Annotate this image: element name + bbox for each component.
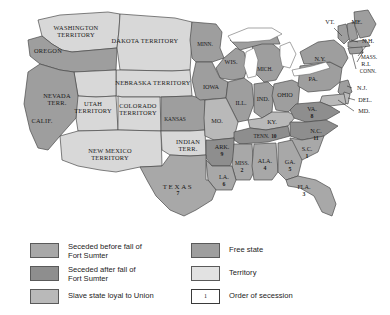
label-minn-: MINN. bbox=[197, 41, 213, 47]
label-line: WASHINGTON bbox=[54, 24, 99, 31]
label-mich-: MICH. bbox=[257, 66, 272, 72]
secession-order-texas: 7 bbox=[177, 190, 180, 196]
map-figure: WASHINGTONTERRITORYOREGONDAKOTA TERRITOR… bbox=[0, 0, 390, 315]
label-ind-: IND. bbox=[257, 95, 270, 102]
label-n-j-: N.J. bbox=[357, 84, 367, 91]
legend-label: Territory bbox=[229, 269, 256, 278]
label-text: TENN. bbox=[253, 133, 269, 139]
legend-swatch-after bbox=[30, 266, 59, 281]
label-r-i-: R.I. bbox=[361, 60, 371, 67]
legend-label: Seceded after fall of Fort Sumter bbox=[68, 266, 136, 284]
label-line: NEVADA bbox=[43, 92, 71, 99]
label-va-: VA. bbox=[307, 105, 317, 112]
label-new-mexico-territory: NEW MEXICOTERRITORY bbox=[88, 147, 132, 161]
label-del-: DEL. bbox=[358, 96, 372, 103]
label-ky-: KY. bbox=[267, 118, 277, 125]
lake-huron bbox=[280, 42, 296, 68]
legend-row[interactable]: Seceded before fall of Fort Sumter bbox=[30, 243, 154, 260]
label-miss-: MISS. bbox=[235, 160, 249, 166]
label-n-y-: N.Y. bbox=[314, 55, 326, 62]
legend-swatch-terr bbox=[191, 266, 220, 281]
label-line: OREGON bbox=[34, 47, 62, 54]
label-tenn-: TENN.10 bbox=[253, 133, 276, 139]
label-wis-: WIS. bbox=[225, 58, 238, 65]
secession-order-la-: 6 bbox=[223, 181, 226, 187]
label-calif-: CALIF. bbox=[31, 117, 52, 124]
secession-order-s-c-: 1 bbox=[306, 153, 309, 159]
label-colorado-territory: COLORADOTERRITORY bbox=[119, 102, 157, 116]
legend-swatch-free bbox=[191, 243, 220, 258]
label-mass-: MASS. bbox=[361, 54, 377, 60]
secession-order-va-: 8 bbox=[311, 113, 314, 119]
label-mo-: MO. bbox=[211, 117, 223, 124]
legend-row[interactable]: Slave state loyal to Union bbox=[30, 289, 154, 303]
secession-order-ark-: 9 bbox=[221, 151, 224, 157]
legend-label: Slave state loyal to Union bbox=[68, 292, 154, 301]
label-line: INDIAN bbox=[176, 138, 200, 145]
label-line: TERRITORY bbox=[91, 154, 129, 161]
label-ga-: GA. bbox=[285, 158, 296, 165]
legend-column-right: Free stateTerritory1Order of secession bbox=[191, 243, 293, 312]
secession-order-ga-: 5 bbox=[289, 166, 292, 172]
us-secession-map: WASHINGTONTERRITORYOREGONDAKOTA TERRITOR… bbox=[0, 0, 390, 250]
legend-label: Seceded before fall of Fort Sumter bbox=[68, 243, 142, 261]
legend-row[interactable]: 1Order of secession bbox=[191, 289, 293, 303]
label-la-: LA. bbox=[219, 173, 229, 180]
label-ark-: ARK. bbox=[215, 143, 230, 150]
leader-conn bbox=[352, 54, 356, 69]
label-n-h-: N.H. bbox=[362, 37, 374, 44]
label-pa-: PA. bbox=[309, 75, 318, 82]
secession-order-ala-: 4 bbox=[264, 165, 267, 171]
legend-row[interactable]: Seceded after fall of Fort Sumter bbox=[30, 266, 154, 283]
label-washington-territory: WASHINGTONTERRITORY bbox=[54, 24, 99, 38]
legend-label: Order of secession bbox=[229, 292, 293, 301]
label-line: TERR. bbox=[47, 99, 66, 106]
secession-order-n-c-: 11 bbox=[313, 135, 319, 141]
legend-swatch-before bbox=[30, 243, 59, 258]
region-northwest-territory-block[interactable] bbox=[74, 70, 116, 97]
legend-row[interactable]: Territory bbox=[191, 266, 293, 280]
label-me-: ME. bbox=[352, 18, 363, 25]
label-md-: MD. bbox=[358, 107, 370, 114]
label-ill-: ILL. bbox=[235, 99, 247, 106]
label-line: TERRITORY bbox=[57, 31, 95, 38]
label-conn-: CONN. bbox=[360, 68, 377, 74]
label-kansas: KANSAS bbox=[164, 116, 186, 122]
label-line: NEW MEXICO bbox=[88, 147, 132, 154]
label-fla-: FLA. bbox=[297, 183, 311, 190]
label-vt-: VT. bbox=[325, 18, 335, 25]
label-nebraska-territory: NEBRASKA TERRITORY bbox=[115, 79, 191, 86]
label-line: TERRITORY bbox=[74, 107, 112, 114]
label-ala-: ALA. bbox=[258, 157, 273, 164]
label-iowa: IOWA bbox=[203, 83, 220, 90]
label-line: TERRITORY bbox=[119, 109, 157, 116]
legend-swatch-loyal bbox=[30, 289, 59, 304]
secession-order-number: 10 bbox=[271, 133, 277, 139]
label-line: TERR. bbox=[178, 145, 197, 152]
label-dakota-territory: DAKOTA TERRITORY bbox=[112, 37, 179, 44]
label-s-c-: S.C. bbox=[302, 145, 313, 152]
label-n-c-: N.C. bbox=[310, 127, 322, 134]
region-florida[interactable] bbox=[286, 176, 336, 216]
secession-order-fla-: 3 bbox=[303, 191, 306, 197]
legend-row[interactable]: Free state bbox=[191, 243, 293, 257]
secession-order-miss-: 2 bbox=[241, 167, 244, 173]
map-legend: Seceded before fall of Fort SumterSecede… bbox=[0, 243, 390, 315]
legend-swatch-order: 1 bbox=[191, 289, 220, 304]
label-oregon: OREGON bbox=[34, 47, 62, 54]
label-line: UTAH bbox=[84, 100, 102, 107]
label-line: CALIF. bbox=[31, 117, 52, 124]
label-line: DAKOTA TERRITORY bbox=[112, 37, 179, 44]
region-kansas[interactable] bbox=[161, 96, 205, 131]
label-ohio: OHIO bbox=[277, 91, 293, 98]
label-indian-terr-: INDIANTERR. bbox=[176, 138, 200, 152]
label-line: NEBRASKA TERRITORY bbox=[115, 79, 191, 86]
legend-column-left: Seceded before fall of Fort SumterSecede… bbox=[30, 243, 154, 312]
legend-label: Free state bbox=[229, 246, 263, 255]
label-line: COLORADO bbox=[119, 102, 157, 109]
